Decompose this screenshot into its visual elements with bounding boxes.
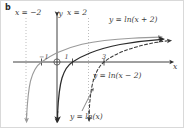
curve-label-ln-x-minus-2: y = ln(x − 2) <box>93 72 141 80</box>
curve-label-ln-x-plus-2: y = ln(x + 2) <box>109 16 157 24</box>
leader-line-ln-x <box>82 89 93 111</box>
x-tick-label-3: 3 <box>102 54 106 61</box>
x-axis-label: x <box>173 63 177 71</box>
left-asymptote-label: x = −2 <box>15 9 41 17</box>
curve-label-ln-x: y = ln(x) <box>70 113 103 121</box>
panel-label: b <box>5 4 11 12</box>
right-asymptote-label: x = 2 <box>67 9 87 17</box>
y-axis-label: y <box>59 10 63 18</box>
x-tick-label-neg1: −1 <box>39 54 49 61</box>
x-tick-label-1: 1 <box>65 54 69 61</box>
logarithm-transformations-figure: b x = −2 x = 2 y x y = ln(x + 2) y = ln(… <box>0 0 184 128</box>
